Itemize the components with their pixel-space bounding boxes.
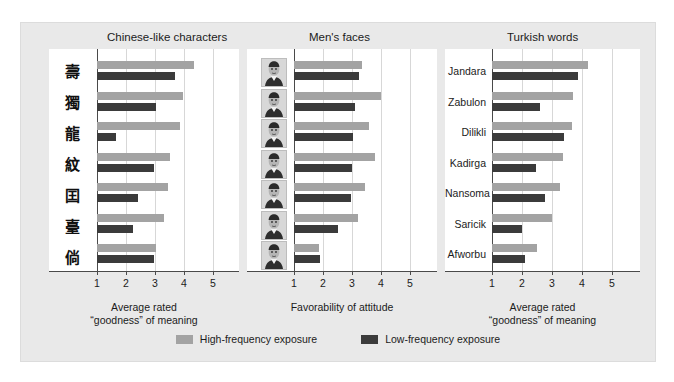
tick-label: 2 xyxy=(512,277,532,289)
bar-low-frequency xyxy=(97,164,154,172)
tick-label: 3 xyxy=(542,277,562,289)
axis-title-chinese-line1: Average rated xyxy=(111,301,177,313)
bar-high-frequency xyxy=(294,183,365,191)
bar-high-frequency xyxy=(294,153,375,161)
bar-low-frequency xyxy=(294,255,320,263)
tick-label: 2 xyxy=(313,277,333,289)
tick-mark xyxy=(126,271,127,275)
tick-mark xyxy=(323,271,324,275)
bar-high-frequency xyxy=(294,122,369,130)
legend-item-high-frequency: High-frequency exposure xyxy=(176,333,317,345)
bar-low-frequency xyxy=(294,164,352,172)
row-glyph-1: 壽 xyxy=(59,59,85,81)
bar-low-frequency xyxy=(294,225,338,233)
row-glyph-7: 倘 xyxy=(59,245,85,267)
row-glyph-5: 囯 xyxy=(59,183,85,205)
figure-panel: Chinese-like characters Men's faces Turk… xyxy=(20,22,656,362)
axis-line-faces xyxy=(247,271,437,272)
bar-high-frequency xyxy=(97,244,156,252)
panel-mens-faces: 12345 xyxy=(247,49,437,271)
tick-label: 5 xyxy=(602,277,622,289)
panel-chinese-like-characters: 壽 獨 龍 紋 囯 臺 倘 12345 xyxy=(49,49,239,271)
row-glyph-4: 紋 xyxy=(59,152,85,174)
tick-mark xyxy=(492,271,493,275)
tick-mark xyxy=(552,271,553,275)
tick-label: 1 xyxy=(87,277,107,289)
tick-label: 4 xyxy=(572,277,592,289)
panel-title-faces: Men's faces xyxy=(309,31,370,43)
tick-mark xyxy=(213,271,214,275)
axis-title-turkish-line2: “goodness” of meaning xyxy=(489,314,596,326)
tick-label: 5 xyxy=(203,277,223,289)
face-thumbnail-6 xyxy=(261,211,287,240)
bar-low-frequency xyxy=(492,164,536,172)
bar-low-frequency xyxy=(97,133,116,141)
legend-item-low-frequency: Low-frequency exposure xyxy=(361,333,500,345)
tick-mark xyxy=(155,271,156,275)
face-thumbnail-3 xyxy=(261,119,287,148)
bar-high-frequency xyxy=(97,92,183,100)
bar-low-frequency xyxy=(294,103,355,111)
bar-high-frequency xyxy=(492,122,572,130)
row-label-afworbu: Afworbu xyxy=(445,248,486,260)
tick-label: 1 xyxy=(482,277,502,289)
bar-high-frequency xyxy=(97,183,168,191)
axis-title-chinese-line2: “goodness” of meaning xyxy=(90,314,197,326)
tick-label: 1 xyxy=(284,277,304,289)
axis-title-chinese: Average rated “goodness” of meaning xyxy=(49,301,239,327)
bar-high-frequency xyxy=(97,153,170,161)
face-thumbnail-5 xyxy=(261,180,287,209)
panel-turkish-words: JandaraZabulonDilikliKadirgaNansomaSaric… xyxy=(445,49,640,271)
bar-low-frequency xyxy=(97,255,154,263)
bar-low-frequency xyxy=(294,194,351,202)
bar-low-frequency xyxy=(294,72,359,80)
legend-swatch-high xyxy=(176,335,193,344)
bar-high-frequency xyxy=(294,92,381,100)
bar-low-frequency xyxy=(97,72,175,80)
tick-mark xyxy=(294,271,295,275)
panel-title-chinese: Chinese-like characters xyxy=(107,31,227,43)
axis-line-chinese xyxy=(49,271,239,272)
row-label-nansoma: Nansoma xyxy=(445,187,486,199)
face-thumbnail-1 xyxy=(261,58,287,87)
tick-label: 4 xyxy=(174,277,194,289)
bar-high-frequency xyxy=(492,183,560,191)
bar-low-frequency xyxy=(294,133,353,141)
row-glyph-2: 獨 xyxy=(59,90,85,112)
row-label-saricik: Saricik xyxy=(445,218,486,230)
bar-low-frequency xyxy=(97,103,156,111)
legend-label-high: High-frequency exposure xyxy=(200,333,317,345)
axis-title-turkish: Average rated “goodness” of meaning xyxy=(445,301,640,327)
bar-high-frequency xyxy=(97,214,164,222)
axis-title-turkish-line1: Average rated xyxy=(510,301,576,313)
bar-high-frequency xyxy=(97,122,180,130)
row-label-jandara: Jandara xyxy=(445,65,486,77)
tick-mark xyxy=(522,271,523,275)
bar-high-frequency xyxy=(97,61,194,69)
tick-label: 3 xyxy=(145,277,165,289)
legend-swatch-low xyxy=(361,335,378,344)
panel-title-turkish: Turkish words xyxy=(507,31,578,43)
tick-mark xyxy=(184,271,185,275)
bar-low-frequency xyxy=(492,72,578,80)
tick-mark xyxy=(381,271,382,275)
row-glyph-6: 臺 xyxy=(59,214,85,236)
legend: High-frequency exposure Low-frequency ex… xyxy=(21,333,655,345)
tick-mark xyxy=(97,271,98,275)
tick-label: 4 xyxy=(371,277,391,289)
bar-low-frequency xyxy=(97,225,133,233)
tick-label: 5 xyxy=(400,277,420,289)
bar-high-frequency xyxy=(492,61,588,69)
row-label-kadirga: Kadirga xyxy=(445,157,486,169)
face-thumbnail-2 xyxy=(261,89,287,118)
face-thumbnail-4 xyxy=(261,150,287,179)
axis-title-faces: Favorability of attitude xyxy=(247,301,437,314)
bar-high-frequency xyxy=(492,214,552,222)
row-label-dilikli: Dilikli xyxy=(445,126,486,138)
bar-high-frequency xyxy=(492,244,537,252)
tick-mark xyxy=(352,271,353,275)
tick-mark xyxy=(612,271,613,275)
panel-titles: Chinese-like characters Men's faces Turk… xyxy=(21,23,655,49)
bar-low-frequency xyxy=(97,194,138,202)
bar-low-frequency xyxy=(492,103,540,111)
